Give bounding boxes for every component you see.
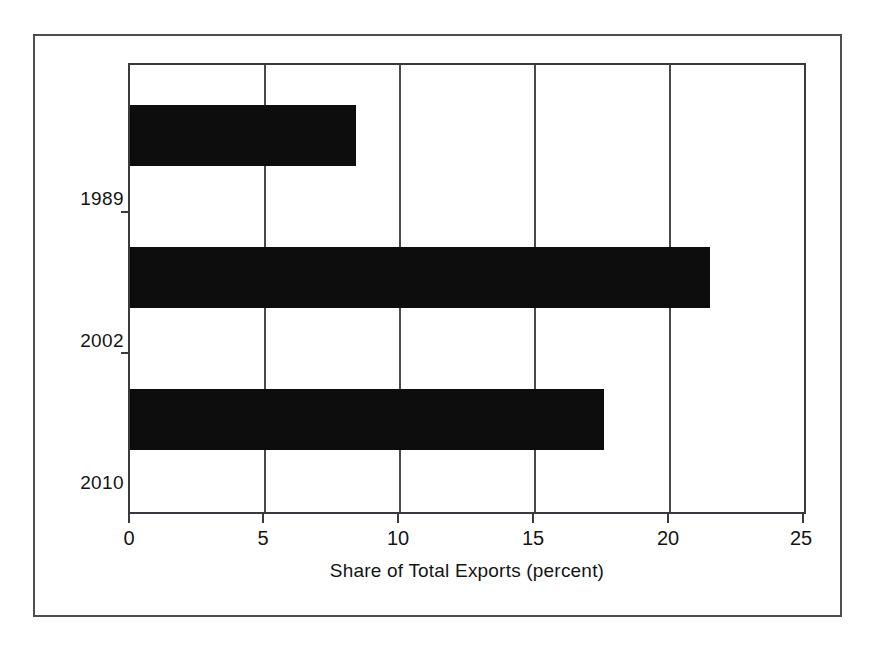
x-tick-label-20: 20: [638, 528, 698, 548]
category-boundary-tick-1: [121, 211, 130, 213]
y-tick-label-1989: 1989: [28, 189, 124, 208]
y-tick-label-2002: 2002: [28, 331, 124, 350]
x-tick-label-0: 0: [99, 528, 159, 548]
y-axis-category-labels: 1989 2002 2010: [14, 63, 124, 514]
x-tick-25: [802, 514, 804, 523]
x-tick-label-5: 5: [233, 528, 293, 548]
bar-2002: [130, 247, 710, 308]
bar-2010: [130, 389, 604, 450]
x-tick-15: [532, 514, 534, 523]
x-axis-title: Share of Total Exports (percent): [128, 560, 806, 582]
x-tick-10: [397, 514, 399, 523]
bar-1989: [130, 105, 356, 166]
x-tick-label-25: 25: [771, 528, 831, 548]
x-tick-0: [128, 514, 130, 523]
x-tick-20: [667, 514, 669, 523]
y-tick-label-2010: 2010: [28, 473, 124, 492]
category-boundary-tick-2: [121, 352, 130, 354]
x-tick-5: [262, 514, 264, 523]
figure-root: 1989 2002 2010 0 5 10 15 20 25 Share of …: [0, 0, 870, 645]
x-tick-label-10: 10: [368, 528, 428, 548]
x-tick-label-15: 15: [503, 528, 563, 548]
plot-area: [128, 63, 806, 514]
